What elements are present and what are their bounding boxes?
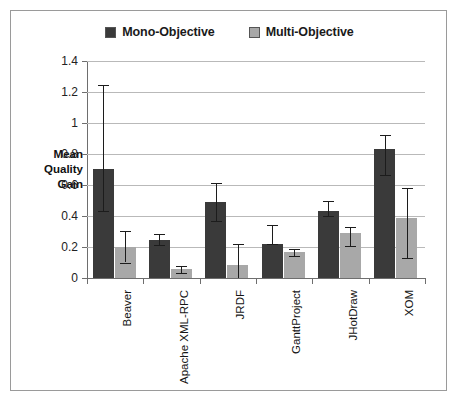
x-axis-category-label: XOM [403,290,415,316]
error-bar-cap-lower [323,216,334,217]
error-bar-stem [385,135,386,175]
error-bar-cap-upper [267,225,278,226]
error-bar-cap-upper [98,85,109,86]
error-bar-cap-lower [154,245,165,246]
chart-frame: Mono-Objective Multi-Objective Mean Qual… [10,10,447,391]
error-bar-cap-upper [345,227,356,228]
x-axis-tick [200,278,201,284]
error-bar-cap-lower [402,258,413,259]
error-bar-stem [238,244,239,278]
error-bar-cap-lower [211,221,222,222]
y-axis-tick-label: 0 [71,271,78,285]
legend-label-mono-objective: Mono-Objective [122,25,214,39]
error-bar-cap-lower [176,273,187,274]
error-bar-cap-upper [120,231,131,232]
error-bar-cap-lower [120,263,131,264]
x-axis-category-label: JHotDraw [347,290,359,340]
x-axis-category-label: Apache XML-RPC [178,290,190,384]
y-axis-tick-label: 0.4 [61,209,78,223]
y-axis-tick-label: 0.6 [61,178,78,192]
error-bar-cap-lower [98,211,109,212]
legend-swatch-multi-objective [249,27,260,38]
y-axis-tick-label: 0.2 [61,240,78,254]
error-bar-stem [407,188,408,258]
legend-item-mono-objective: Mono-Objective [105,25,214,39]
bar-group [200,61,256,278]
y-axis-tick-label: 1 [71,116,78,130]
error-bar-cap-lower [345,246,356,247]
error-bar-stem [350,227,351,246]
y-axis-title-line-2: Quality [25,162,83,177]
error-bar-cap-upper [176,266,187,267]
x-axis-category-label: JRDF [234,290,246,319]
error-bar-cap-upper [211,183,222,184]
error-bar-stem [125,231,126,263]
legend-swatch-mono-objective [105,27,116,38]
error-bar-cap-upper [380,135,391,136]
x-axis-category-label: Beaver [121,290,133,326]
x-axis-tick [312,278,313,284]
plot-area: 00.20.40.60.811.21.4 [87,61,425,278]
error-bar-cap-lower [380,175,391,176]
error-bar-stem [216,183,217,220]
bar-group [87,61,143,278]
y-axis-tick-label: 0.8 [61,147,78,161]
error-bar-stem [294,249,295,256]
bar-group [256,61,312,278]
chart-legend: Mono-Objective Multi-Objective [11,25,448,39]
error-bar-stem [159,234,160,245]
error-bar-stem [328,201,329,217]
bar-group [369,61,425,278]
error-bar-cap-upper [233,244,244,245]
error-bar-stem [181,266,182,273]
x-axis-tick [143,278,144,284]
error-bar-cap-lower [267,244,278,245]
bar-group [312,61,368,278]
y-axis-tick-label: 1.4 [61,54,78,68]
x-axis-tick [425,278,426,284]
x-axis-tick [256,278,257,284]
bar-mono-objective [318,211,339,278]
error-bar-stem [272,225,273,244]
error-bar-cap-lower [289,256,300,257]
x-axis-tick [369,278,370,284]
x-axis-tick [87,278,88,284]
error-bar-stem [103,85,104,211]
x-axis-category-label: GanttProject [290,290,302,354]
y-axis-tick-label: 1.2 [61,85,78,99]
error-bar-cap-upper [154,234,165,235]
error-bar-cap-upper [289,249,300,250]
legend-item-multi-objective: Multi-Objective [249,25,354,39]
error-bar-cap-upper [402,188,413,189]
bar-mono-objective [149,240,170,278]
legend-label-multi-objective: Multi-Objective [266,25,354,39]
error-bar-cap-upper [323,201,334,202]
bar-mono-objective [262,244,283,278]
bar-group [143,61,199,278]
